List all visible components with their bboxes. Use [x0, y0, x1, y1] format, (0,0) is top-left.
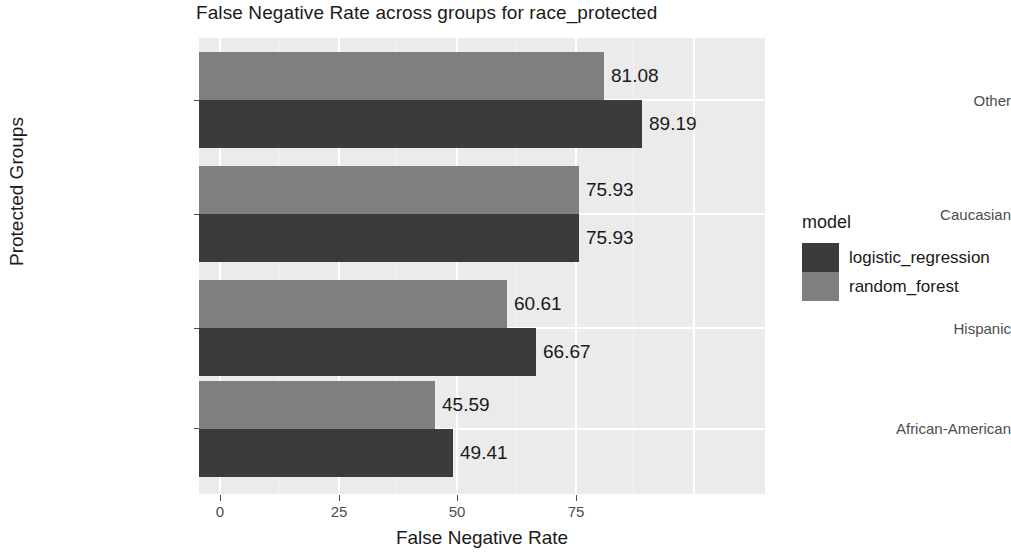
- x-tick-mark-25: [339, 495, 340, 501]
- y-tick-label-other: Other: [826, 92, 1011, 109]
- x-tick-label-25: 25: [331, 503, 348, 520]
- bar-value-label-other-logistic-regression: 89.19: [649, 113, 697, 135]
- bar-value-label-african-american-random-forest: 45.59: [442, 394, 490, 416]
- y-tick-label-african-american: African-American: [826, 420, 1011, 437]
- x-tick-mark-50: [457, 495, 458, 501]
- bar-caucasian-logistic-regression: [199, 214, 579, 262]
- bar-african-american-logistic-regression: [199, 429, 453, 477]
- x-tick-mark-75: [576, 495, 577, 501]
- legend-label-random-forest: random_forest: [849, 277, 959, 297]
- x-tick-label-75: 75: [568, 503, 585, 520]
- bar-other-random-forest: [199, 52, 604, 100]
- gridline-major-vertical-100: [693, 38, 695, 494]
- legend-title: model: [802, 212, 851, 233]
- legend-swatch-logistic-regression: [802, 243, 839, 272]
- x-tick-label-0: 0: [216, 503, 224, 520]
- bar-value-label-caucasian-logistic-regression: 75.93: [586, 227, 634, 249]
- bar-value-label-hispanic-random-forest: 60.61: [514, 293, 562, 315]
- x-tick-label-50: 50: [449, 503, 466, 520]
- bar-value-label-other-random-forest: 81.08: [611, 65, 659, 87]
- bar-value-label-hispanic-logistic-regression: 66.67: [543, 341, 591, 363]
- chart-figure: False Negative Rate across groups for ra…: [0, 0, 1011, 560]
- bar-value-label-caucasian-random-forest: 75.93: [586, 179, 634, 201]
- chart-title: False Negative Rate across groups for ra…: [196, 2, 657, 24]
- plot-panel: 81.08 89.19 75.93 75.93 60.61 66.67 45.5…: [199, 38, 765, 494]
- bar-value-label-african-american-logistic-regression: 49.41: [460, 442, 508, 464]
- legend-label-logistic-regression: logistic_regression: [849, 248, 990, 268]
- x-tick-mark-0: [220, 495, 221, 501]
- bar-hispanic-logistic-regression: [199, 328, 536, 376]
- legend-swatch-random-forest: [802, 272, 839, 301]
- bar-other-logistic-regression: [199, 100, 642, 148]
- bar-caucasian-random-forest: [199, 166, 579, 214]
- x-axis-title: False Negative Rate: [199, 527, 765, 549]
- y-tick-label-hispanic: Hispanic: [826, 320, 1011, 337]
- y-axis-title: Protected Groups: [6, 117, 28, 266]
- bar-hispanic-random-forest: [199, 280, 507, 328]
- y-tick-label-caucasian: Caucasian: [826, 206, 1011, 223]
- bar-african-american-random-forest: [199, 381, 435, 429]
